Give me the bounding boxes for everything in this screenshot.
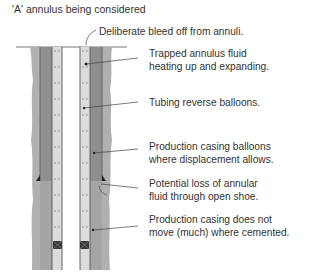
label-tubing-reverse: Tubing reverse balloons. [149, 97, 260, 110]
cement-right [90, 47, 102, 181]
label-cemented-2: move (much) where cemented. [149, 227, 289, 240]
a-annulus-right [80, 47, 90, 270]
leader-bleed-off [86, 30, 96, 45]
openhole-left [40, 181, 52, 270]
label-cemented-1: Production casing does not [149, 214, 272, 227]
label-casing-balloons-1: Production casing balloons [149, 141, 271, 154]
label-bleed-off: Deliberate bleed off from annuli. [99, 26, 243, 39]
label-trapped-fluid-1: Trapped annulus fluid [149, 48, 247, 61]
cement-left [40, 47, 52, 181]
formation-left [30, 47, 40, 270]
label-loss-1: Potential loss of annular [149, 178, 258, 191]
formation-right [102, 47, 112, 270]
label-loss-2: fluid through open shoe. [149, 191, 258, 204]
label-casing-balloons-2: where displacement allows. [149, 154, 274, 167]
openhole-right [90, 181, 102, 270]
a-annulus-left [52, 47, 62, 270]
label-trapped-fluid-2: heating up and expanding. [149, 61, 269, 74]
